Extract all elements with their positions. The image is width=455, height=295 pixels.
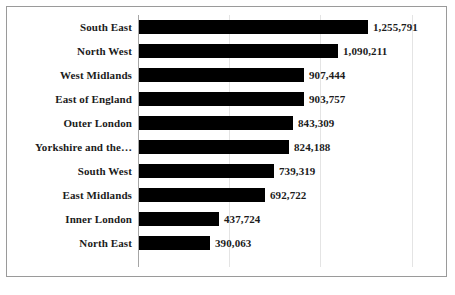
bar[interactable] [139, 236, 210, 250]
bar-row[interactable]: Outer London843,309 [138, 111, 443, 135]
value-label: 903,757 [309, 87, 345, 111]
bar[interactable] [139, 92, 304, 106]
category-label: West Midlands [60, 63, 132, 87]
value-label: 1,255,791 [373, 15, 418, 39]
value-label: 739,319 [279, 159, 315, 183]
bar-row[interactable]: North East390,063 [138, 231, 443, 255]
bar-row[interactable]: South West739,319 [138, 159, 443, 183]
category-label: North West [77, 39, 132, 63]
category-label: South West [78, 159, 132, 183]
bar[interactable] [139, 68, 304, 82]
bar[interactable] [139, 44, 338, 58]
bar[interactable] [139, 212, 219, 226]
category-label: East Midlands [63, 183, 132, 207]
bar-row[interactable]: West Midlands907,444 [138, 63, 443, 87]
category-label: Outer London [63, 111, 132, 135]
bar-row[interactable]: East Midlands692,722 [138, 183, 443, 207]
value-label: 390,063 [215, 231, 251, 255]
bar-row[interactable]: East of England903,757 [138, 87, 443, 111]
bar-row[interactable]: Yorkshire and the…824,188 [138, 135, 443, 159]
bar-row[interactable]: Inner London437,724 [138, 207, 443, 231]
category-label: Yorkshire and the… [35, 135, 132, 159]
bar-row[interactable]: South East1,255,791 [138, 15, 443, 39]
value-label: 437,724 [224, 207, 260, 231]
bar[interactable] [139, 188, 265, 202]
category-label: Inner London [65, 207, 132, 231]
value-label: 824,188 [294, 135, 330, 159]
value-label: 907,444 [309, 63, 345, 87]
category-label: East of England [55, 87, 132, 111]
category-label: North East [79, 231, 132, 255]
bar[interactable] [139, 116, 293, 130]
plot-area: South East1,255,791North West1,090,211We… [138, 15, 443, 267]
value-label: 843,309 [298, 111, 334, 135]
chart-frame: South East1,255,791North West1,090,211We… [6, 6, 447, 277]
category-label: South East [80, 15, 132, 39]
bar[interactable] [139, 140, 289, 154]
bar-row[interactable]: North West1,090,211 [138, 39, 443, 63]
bar-rows: South East1,255,791North West1,090,211We… [138, 15, 443, 267]
bar[interactable] [139, 20, 368, 34]
value-label: 1,090,211 [343, 39, 387, 63]
value-label: 692,722 [270, 183, 306, 207]
bar[interactable] [139, 164, 274, 178]
